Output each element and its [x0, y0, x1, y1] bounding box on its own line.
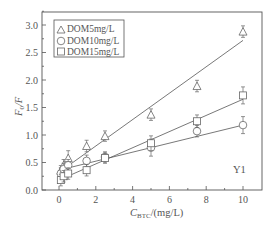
square-marker-icon	[240, 92, 247, 99]
data-point	[83, 164, 90, 176]
y-tick-label: 0.0	[26, 185, 39, 196]
y-tick-label: 0.5	[26, 157, 39, 168]
y-tick-label: 2.0	[26, 75, 39, 86]
x-tick-label: 4	[130, 194, 135, 205]
chart: 0246810 0.00.51.01.52.02.53.0 DOM5mg/L D…	[0, 0, 272, 230]
legend-label: DOM15mg/L	[67, 47, 119, 57]
y-tick-label: 1.0	[26, 130, 39, 141]
triangle-marker-icon	[147, 111, 155, 119]
y-tick-label: 3.0	[26, 20, 39, 31]
data-point	[240, 87, 247, 104]
triangle-marker-icon	[101, 132, 109, 140]
x-tick-label: 6	[167, 194, 172, 205]
y-tick-label: 2.5	[26, 47, 39, 58]
data-point	[194, 115, 201, 128]
square-marker-icon	[65, 170, 72, 177]
x-tick-label: 2	[93, 194, 98, 205]
triangle-marker-icon	[239, 28, 247, 35]
square-marker-icon	[83, 167, 90, 174]
data-point	[193, 80, 201, 92]
triangle-marker-icon	[83, 142, 91, 150]
square-marker-icon	[148, 140, 155, 147]
circle-marker-icon	[83, 157, 91, 165]
data-point	[101, 131, 109, 141]
x-tick-label: 10	[238, 194, 248, 205]
legend: DOM5mg/L DOM10mg/L DOM15mg/L	[54, 20, 124, 57]
data-point	[83, 140, 91, 152]
x-tick-label: 0	[57, 194, 62, 205]
data-point	[147, 109, 155, 121]
x-axis: 0246810	[57, 186, 249, 205]
y-axis-label: F0/F	[13, 96, 26, 117]
x-axis-label: CBTC/(mg/L)	[130, 207, 184, 220]
circle-marker-icon	[239, 121, 247, 129]
y-tick-label: 1.5	[26, 102, 39, 113]
triangle-marker-icon	[193, 82, 201, 90]
legend-item-dom10: DOM10mg/L	[57, 36, 119, 46]
y-axis: 0.00.51.01.52.02.53.0	[26, 11, 47, 195]
data-point	[239, 26, 247, 37]
panel-annotation: Y1	[233, 164, 246, 175]
data-point	[102, 153, 109, 163]
data-point	[239, 117, 247, 134]
square-marker-icon	[102, 155, 109, 162]
legend-label: DOM5mg/L	[67, 24, 115, 34]
legend-item-dom15: DOM15mg/L	[58, 47, 120, 57]
square-marker-icon	[194, 118, 201, 125]
x-tick-label: 8	[204, 194, 209, 205]
legend-label: DOM10mg/L	[67, 36, 119, 46]
circle-marker-icon	[193, 127, 201, 135]
